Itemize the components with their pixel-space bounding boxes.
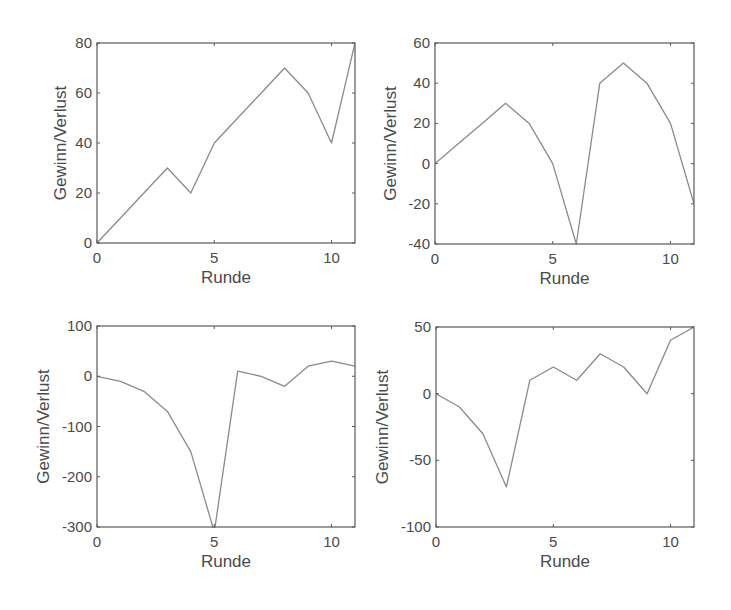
- x-tick-label: 10: [323, 533, 340, 550]
- x-tick-label: 0: [431, 250, 439, 267]
- y-tick-label: 60: [413, 34, 430, 51]
- y-tick-label: 60: [75, 84, 92, 101]
- y-tick-label: 40: [413, 74, 430, 91]
- x-tick-label: 5: [549, 533, 557, 550]
- data-line: [97, 361, 355, 532]
- axes-frame: [435, 43, 694, 244]
- y-tick-label: 80: [75, 34, 92, 51]
- chart-canvas: 0510020406080RundeGewinn/Verlust0510-40-…: [0, 0, 731, 610]
- y-tick-label: -40: [408, 235, 430, 252]
- x-axis-title: Runde: [201, 268, 251, 287]
- data-line: [435, 63, 694, 244]
- y-tick-label: -100: [401, 518, 431, 535]
- x-tick-label: 0: [432, 533, 440, 550]
- x-tick-label: 10: [662, 250, 679, 267]
- y-tick-label: 0: [422, 155, 430, 172]
- y-tick-label: 100: [67, 317, 92, 334]
- subplot-bottom-left: 0510-300-200-1000100RundeGewinn/Verlust: [34, 317, 355, 571]
- y-tick-label: 40: [75, 134, 92, 151]
- x-axis-title: Runde: [201, 552, 251, 571]
- y-tick-label: -200: [62, 468, 92, 485]
- y-tick-label: 50: [414, 318, 431, 335]
- y-axis-title: Gewinn/Verlust: [381, 86, 400, 201]
- subplot-top-right: 0510-40-200204060RundeGewinn/Verlust: [381, 34, 695, 288]
- axes-frame: [97, 43, 355, 243]
- y-tick-label: 20: [75, 184, 92, 201]
- y-tick-label: -100: [62, 418, 92, 435]
- x-axis-title: Runde: [539, 269, 589, 288]
- x-tick-label: 10: [323, 249, 340, 266]
- x-tick-label: 0: [93, 249, 101, 266]
- data-line: [97, 43, 355, 243]
- y-axis-title: Gewinn/Verlust: [34, 369, 53, 484]
- x-tick-label: 5: [210, 249, 218, 266]
- y-axis-title: Gewinn/Verlust: [51, 86, 70, 201]
- x-tick-label: 5: [210, 533, 218, 550]
- y-tick-label: 20: [413, 114, 430, 131]
- data-line: [436, 327, 694, 487]
- y-tick-label: 0: [423, 385, 431, 402]
- x-tick-label: 5: [549, 250, 557, 267]
- y-tick-label: -50: [409, 451, 431, 468]
- y-tick-label: 0: [84, 367, 92, 384]
- x-axis-title: Runde: [540, 552, 590, 571]
- y-tick-label: -300: [62, 518, 92, 535]
- y-axis-title: Gewinn/Verlust: [373, 370, 392, 485]
- y-tick-label: 0: [84, 234, 92, 251]
- y-tick-label: -20: [408, 195, 430, 212]
- subplot-bottom-right: 0510-100-50050RundeGewinn/Verlust: [373, 318, 694, 571]
- subplot-top-left: 0510020406080RundeGewinn/Verlust: [51, 34, 355, 287]
- x-tick-label: 0: [93, 533, 101, 550]
- x-tick-label: 10: [662, 533, 679, 550]
- axes-frame: [436, 327, 694, 527]
- axes-frame: [97, 326, 355, 527]
